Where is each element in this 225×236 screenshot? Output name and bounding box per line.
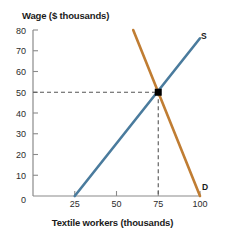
- y-tick-label-10: 10: [4, 171, 26, 181]
- supply-curve-label: S: [201, 31, 207, 41]
- x-tick-label-100: 100: [185, 199, 215, 209]
- x-tick-label-75: 75: [143, 199, 173, 209]
- y-tick-label-40: 40: [4, 109, 26, 119]
- y-tick-label-20: 20: [4, 150, 26, 160]
- x-axis-title: Textile workers (thousands): [0, 217, 225, 228]
- y-tick-label-60: 60: [4, 67, 26, 77]
- equilibrium-point-marker: [155, 89, 162, 96]
- x-tick-label-25: 25: [60, 199, 90, 209]
- y-tick-label-70: 70: [4, 46, 26, 56]
- y-tick-label-0: 0: [4, 195, 26, 205]
- y-tick-label-80: 80: [4, 26, 26, 36]
- axes: [33, 30, 200, 196]
- demand-curve-label: D: [202, 182, 208, 192]
- y-tick-label-50: 50: [4, 88, 26, 98]
- x-tick-label-50: 50: [102, 199, 132, 209]
- demand-curve: [133, 30, 200, 196]
- x-axis-ticks: [75, 191, 200, 196]
- y-axis-ticks: [33, 30, 38, 175]
- supply-demand-chart: Wage ($ thousands) 80 70 60: [0, 0, 225, 236]
- supply-curve: [75, 38, 200, 196]
- y-tick-label-30: 30: [4, 129, 26, 139]
